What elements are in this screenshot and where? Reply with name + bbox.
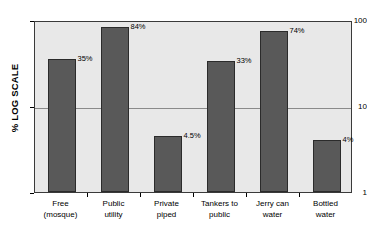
bar	[154, 136, 182, 192]
x-category-label: Jerry canwater	[246, 199, 299, 220]
x-category-line2: water	[246, 210, 299, 221]
bar-value-label: 33%	[237, 57, 252, 65]
bar-value-label: 74%	[290, 27, 305, 35]
bars-layer: 35%84%4.5%33%74%4%	[35, 22, 351, 192]
x-tick-mark	[246, 193, 247, 197]
x-category-line2: utility	[87, 210, 140, 221]
x-axis-labels: Free(mosque)PublicutilityPrivatepipedTan…	[34, 199, 352, 233]
bar-value-label: 84%	[131, 23, 146, 31]
bar	[48, 59, 76, 192]
x-tick-mark	[299, 193, 300, 197]
x-tick-mark	[193, 193, 194, 197]
x-category-label: Free(mosque)	[34, 199, 87, 220]
bar	[207, 61, 235, 192]
x-category-line1: Jerry can	[246, 199, 299, 210]
bar-value-label: 4.5%	[184, 132, 201, 140]
x-category-line2: water	[299, 210, 352, 221]
x-category-line1: Bottled	[299, 199, 352, 210]
x-category-line2: piped	[140, 210, 193, 221]
x-category-label: Privatepiped	[140, 199, 193, 220]
x-tick-mark	[87, 193, 88, 197]
x-category-label: Publicutility	[87, 199, 140, 220]
y-axis-title: % LOG SCALE	[8, 3, 22, 193]
bar	[313, 140, 341, 192]
x-category-line2: public	[193, 210, 246, 221]
x-category-line1: Free	[34, 199, 87, 210]
bar-value-label: 35%	[78, 55, 93, 63]
bar	[260, 31, 288, 192]
bar-value-label: 4%	[343, 136, 354, 144]
bar-chart: % LOG SCALE 100 10 1 35%84%4.5%33%74%4% …	[0, 0, 367, 238]
x-category-label: Tankers topublic	[193, 199, 246, 220]
x-category-line2: (mosque)	[34, 210, 87, 221]
bar	[101, 27, 129, 192]
plot-area: 35%84%4.5%33%74%4%	[34, 21, 352, 193]
y-tick-mark-1	[30, 193, 34, 194]
x-category-label: Bottledwater	[299, 199, 352, 220]
x-tick-mark	[140, 193, 141, 197]
x-category-line1: Private	[140, 199, 193, 210]
x-category-line1: Public	[87, 199, 140, 210]
x-category-line1: Tankers to	[193, 199, 246, 210]
